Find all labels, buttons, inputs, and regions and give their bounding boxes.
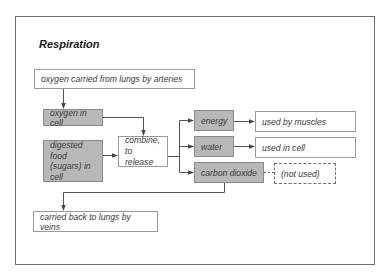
water-label: water (201, 142, 222, 152)
used-by-muscles-box: used by muscles (255, 111, 356, 132)
veins-box: carried back to lungs by veins (33, 211, 158, 232)
combine-label: combine, to release (125, 135, 161, 168)
energy-box: energy (194, 110, 234, 131)
digested-food-box: digested food (sugars) in cell (43, 140, 103, 182)
carbon-dioxide-label: carbon dioxide (201, 168, 257, 178)
not-used-box: (not used) (274, 163, 336, 184)
not-used-label: (not used) (281, 169, 320, 179)
used-in-cell-label: used in cell (262, 143, 305, 153)
energy-label: energy (201, 116, 227, 126)
veins-label: carried back to lungs by veins (40, 212, 151, 232)
carbon-dioxide-box: carbon dioxide (194, 162, 264, 183)
combine-box: combine, to release (118, 136, 168, 167)
arteries-label: oxygen carried from lungs by arteries (41, 74, 182, 84)
used-by-muscles-label: used by muscles (262, 117, 326, 127)
water-box: water (194, 136, 234, 157)
oxygen-in-cell-label: oxygen in cell (50, 108, 96, 128)
arteries-box: oxygen carried from lungs by arteries (34, 69, 195, 89)
used-in-cell-box: used in cell (255, 137, 356, 158)
oxygen-in-cell-box: oxygen in cell (43, 109, 103, 126)
digested-food-label: digested food (sugars) in cell (50, 140, 96, 182)
